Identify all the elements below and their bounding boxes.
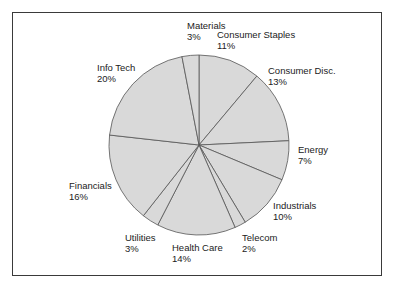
label-industrials: Industrials10% [273,200,316,222]
label-utilities: Utilities3% [125,232,156,254]
label-energy: Energy7% [298,144,328,166]
label-health-care: Health Care14% [172,242,223,264]
label-financials: Financials16% [69,180,112,202]
label-consumer-disc: Consumer Disc.13% [268,65,336,87]
label-telecom: Telecom2% [242,232,277,254]
label-consumer-staples: Consumer Staples11% [217,29,295,51]
label-info-tech: Info Tech20% [97,62,135,84]
